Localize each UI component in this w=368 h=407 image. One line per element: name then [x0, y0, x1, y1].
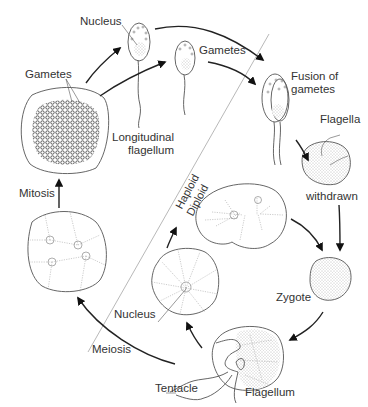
label-meiosis: Meiosis	[92, 343, 131, 356]
mitotic-cell	[28, 212, 106, 293]
label-mitosis: Mitosis	[19, 187, 55, 200]
label-flagellum-top: flagellum	[128, 144, 174, 157]
label-gametes-fusion: gametes	[291, 83, 335, 96]
label-gametes-top: Gametes	[199, 44, 246, 57]
label-longitudinal: Longitudinal	[112, 131, 174, 144]
gamete-2	[175, 41, 195, 115]
label-nucleus-top: Nucleus	[80, 15, 122, 28]
fusing-gametes	[262, 74, 289, 165]
flagella-withdrawn-cell	[302, 135, 350, 185]
dividing-cell	[196, 184, 287, 249]
label-gametes-left: Gametes	[25, 68, 72, 81]
label-tentacle: Tentacle	[155, 382, 198, 395]
zygote-cell	[310, 258, 351, 301]
gametangium-cell	[21, 79, 108, 174]
meiotic-cell	[152, 248, 219, 322]
label-flagella: Flagella	[320, 113, 360, 126]
label-fusion-of: Fusion of	[291, 70, 338, 83]
label-nucleus-bottom: Nucleus	[114, 308, 156, 321]
label-flagellum-bottom: Flagellum	[245, 386, 295, 399]
label-withdrawn: withdrawn	[306, 190, 358, 203]
label-zygote: Zygote	[276, 291, 311, 304]
